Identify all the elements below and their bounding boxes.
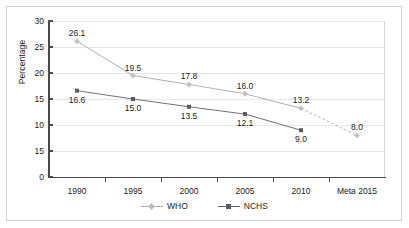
- data-point-label: 26.1: [47, 28, 107, 38]
- nchs-square-marker-icon: [243, 112, 247, 116]
- data-point-label: 13.2: [271, 95, 331, 105]
- who-diamond-marker-icon: [74, 38, 80, 44]
- legend-item-who[interactable]: WHO: [141, 201, 188, 211]
- chart-figure: Percentage 3025201510150 199019952000200…: [0, 0, 409, 228]
- data-point-label: 16.6: [47, 95, 107, 105]
- who-diamond-marker-icon: [242, 91, 248, 97]
- data-point-label: 8.0: [327, 122, 387, 132]
- who-diamond-marker-icon: [186, 81, 192, 87]
- data-point-label: 17.8: [159, 71, 219, 81]
- nchs-line-icon: [218, 202, 240, 210]
- data-point-label: 15.0: [103, 103, 163, 113]
- who-diamond-marker-icon: [148, 202, 155, 209]
- who-diamond-marker-icon: [298, 105, 304, 111]
- data-point-label: 9.0: [271, 134, 331, 144]
- nchs-square-marker-icon: [187, 105, 191, 109]
- nchs-square-marker-icon: [226, 204, 231, 209]
- who-diamond-marker-icon: [130, 73, 136, 79]
- legend-label-who: WHO: [167, 201, 188, 211]
- data-point-label: 12.1: [215, 118, 275, 128]
- data-point-label: 16.0: [215, 81, 275, 91]
- legend-label-nchs: NCHS: [244, 201, 268, 211]
- nchs-square-marker-icon: [131, 97, 135, 101]
- nchs-square-marker-icon: [299, 128, 303, 132]
- who-line-icon: [141, 202, 163, 210]
- data-point-label: 19.5: [103, 63, 163, 73]
- data-point-label: 13.5: [159, 111, 219, 121]
- nchs-square-marker-icon: [75, 89, 79, 93]
- who-diamond-marker-icon: [354, 132, 360, 138]
- legend-item-nchs[interactable]: NCHS: [218, 201, 268, 211]
- chart-legend: WHO NCHS: [0, 201, 409, 211]
